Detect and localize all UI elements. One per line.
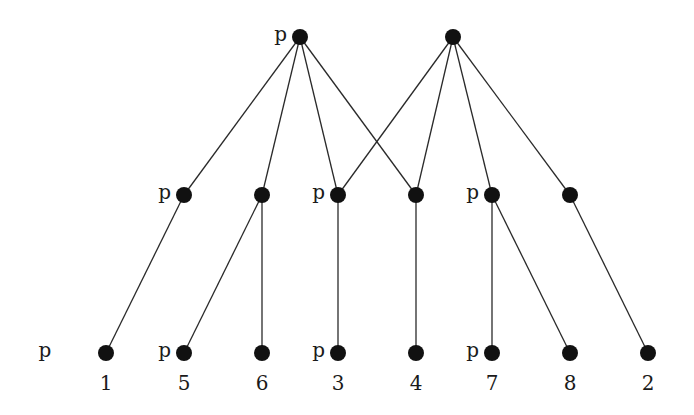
edge-t1-m3	[300, 37, 338, 195]
node-t1	[292, 29, 308, 45]
node-m1	[176, 187, 192, 203]
edge-m1-b1	[106, 195, 184, 353]
edge-t2-m3	[338, 37, 453, 195]
node-m2	[254, 187, 270, 203]
node-m4	[408, 187, 424, 203]
edge-t1-m4	[300, 37, 416, 195]
layered-graph-diagram: pppp1p56p34p782p	[0, 0, 694, 415]
marker-label-m5: p	[466, 180, 479, 204]
edge-m6-b2	[570, 195, 648, 353]
node-number-label-b4: 4	[410, 371, 423, 395]
marker-label-b3: p	[312, 338, 325, 362]
edge-m2-b5	[184, 195, 262, 353]
node-number-label-b2: 2	[642, 371, 655, 395]
node-m6	[562, 187, 578, 203]
node-m5	[484, 187, 500, 203]
marker-label-m3: p	[312, 180, 325, 204]
marker-label-b7: p	[466, 338, 479, 362]
node-number-label-b3: 3	[332, 371, 345, 395]
node-m3	[330, 187, 346, 203]
marker-label-t1: p	[274, 22, 287, 46]
edge-t1-m2	[262, 37, 300, 195]
marker-label-m1: p	[158, 180, 171, 204]
nodes-group	[98, 29, 656, 361]
edge-t2-m6	[453, 37, 570, 195]
node-t2	[445, 29, 461, 45]
edge-t1-m1	[184, 37, 300, 195]
node-number-label-b6: 6	[256, 371, 269, 395]
node-number-label-b1: 1	[100, 371, 113, 395]
node-b8	[562, 345, 578, 361]
free-marker-label: p	[39, 338, 52, 362]
edge-m5-b8	[492, 195, 570, 353]
node-b7	[484, 345, 500, 361]
node-b1	[98, 345, 114, 361]
node-number-label-b8: 8	[564, 371, 577, 395]
node-number-label-b7: 7	[486, 371, 499, 395]
labels-group: pppp1p56p34p782p	[39, 22, 655, 395]
node-number-label-b5: 5	[178, 371, 191, 395]
node-b5	[176, 345, 192, 361]
marker-label-b5: p	[158, 338, 171, 362]
node-b2	[640, 345, 656, 361]
node-b6	[254, 345, 270, 361]
edge-t2-m4	[416, 37, 453, 195]
node-b3	[330, 345, 346, 361]
node-b4	[408, 345, 424, 361]
edge-t2-m5	[453, 37, 492, 195]
